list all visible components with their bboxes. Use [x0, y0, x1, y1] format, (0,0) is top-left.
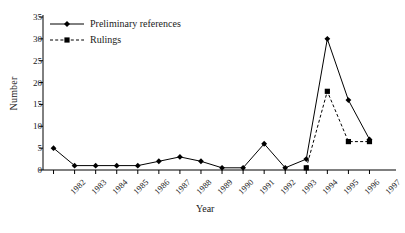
- data-point-0: [93, 163, 99, 169]
- data-point-0: [156, 158, 162, 164]
- data-point-1: [367, 139, 372, 144]
- data-point-1: [304, 165, 309, 170]
- plot-area: [0, 0, 405, 233]
- data-point-1: [346, 139, 351, 144]
- data-point-0: [135, 163, 141, 169]
- data-point-0: [346, 97, 352, 103]
- chart-figure: Number Year 05101520253035 1982198319841…: [0, 0, 405, 233]
- data-point-0: [198, 158, 204, 164]
- data-point-0: [177, 154, 183, 160]
- data-point-1: [325, 89, 330, 94]
- data-point-0: [324, 36, 330, 42]
- data-point-0: [114, 163, 120, 169]
